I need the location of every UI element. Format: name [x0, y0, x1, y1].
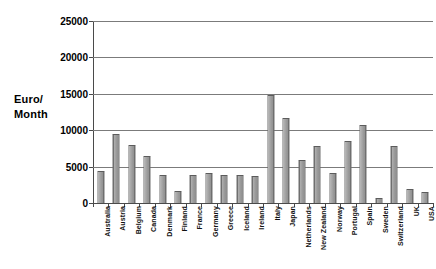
bar — [221, 175, 228, 203]
bar-slot — [232, 21, 247, 203]
bar-slot — [263, 21, 278, 203]
x-tick-label: New Zealand — [320, 206, 327, 250]
y-axis-tick-labels: 0500010000150002000025000 — [36, 0, 88, 269]
x-tick-label: Austria — [119, 206, 126, 231]
bar-slot — [325, 21, 340, 203]
x-tick-label: Australia — [104, 206, 111, 237]
x-tick-label: Norway — [336, 206, 343, 232]
x-tick-label: Italy — [274, 206, 281, 221]
bar-slot — [108, 21, 123, 203]
bar-slot — [201, 21, 216, 203]
bar-slot — [170, 21, 185, 203]
bar — [144, 156, 151, 203]
bar — [314, 146, 321, 204]
bar-slot — [139, 21, 154, 203]
x-tick-label: Portugal — [351, 206, 358, 235]
bar-slot — [217, 21, 232, 203]
bar — [205, 173, 212, 203]
bar-slot — [402, 21, 417, 203]
x-tick-label: Finland — [181, 206, 188, 232]
bar-slot — [186, 21, 201, 203]
x-tick-label: Canada — [150, 206, 157, 232]
x-tick-label: Belgium — [135, 206, 142, 234]
bar-slot — [93, 21, 108, 203]
bar — [252, 176, 259, 203]
bar — [298, 160, 305, 203]
bar-slot — [309, 21, 324, 203]
bar-slot — [155, 21, 170, 203]
bar — [344, 141, 351, 203]
bar — [174, 191, 181, 203]
bar-slot — [124, 21, 139, 203]
bar-slot — [340, 21, 355, 203]
bar — [360, 125, 367, 203]
x-tick-label: Germany — [212, 206, 219, 237]
bar-slot — [387, 21, 402, 203]
x-tick-label: Netherlands — [305, 206, 312, 248]
bar — [329, 173, 336, 203]
x-tick-label: Greece — [227, 206, 234, 230]
bar-slot — [371, 21, 386, 203]
x-axis-tick-labels: AustraliaAustriaBelgiumCanadaDenmarkFinl… — [93, 206, 433, 268]
bar — [190, 175, 197, 203]
x-tick-label: Denmark — [166, 206, 173, 237]
bars-group — [93, 21, 433, 203]
x-tick-label: Spain — [366, 206, 373, 226]
bar-chart-figure: Euro/ Month 0500010000150002000025000 Au… — [0, 0, 436, 269]
y-tick-label: 15000 — [36, 88, 88, 99]
bar — [422, 192, 429, 203]
bar-slot — [356, 21, 371, 203]
bar — [159, 175, 166, 203]
bar — [406, 189, 413, 203]
x-tick-label: Iceland — [243, 206, 250, 231]
bar — [375, 198, 382, 203]
bar — [283, 118, 290, 203]
x-tick-label: Ireland — [258, 206, 265, 230]
y-tick-label: 20000 — [36, 52, 88, 63]
x-tick-label: Sweden — [382, 206, 389, 233]
x-tick-label: UK — [413, 206, 420, 216]
bar — [128, 145, 135, 203]
bar-slot — [278, 21, 293, 203]
bar-slot — [248, 21, 263, 203]
bar-slot — [418, 21, 433, 203]
bar — [391, 146, 398, 203]
bar-slot — [294, 21, 309, 203]
y-tick-label: 5000 — [36, 161, 88, 172]
x-tick-label: USA — [428, 206, 435, 221]
x-tick-label: Switzerland — [397, 206, 404, 246]
x-tick-label: France — [196, 206, 203, 230]
y-tick-label: 10000 — [36, 125, 88, 136]
bar — [267, 95, 274, 203]
y-tick-label: 0 — [36, 198, 88, 209]
bar — [97, 171, 104, 203]
x-tick-label: Japan — [289, 206, 296, 227]
bar — [236, 175, 243, 203]
bar — [113, 134, 120, 203]
y-tick-label: 25000 — [36, 16, 88, 27]
plot-area — [93, 21, 433, 203]
